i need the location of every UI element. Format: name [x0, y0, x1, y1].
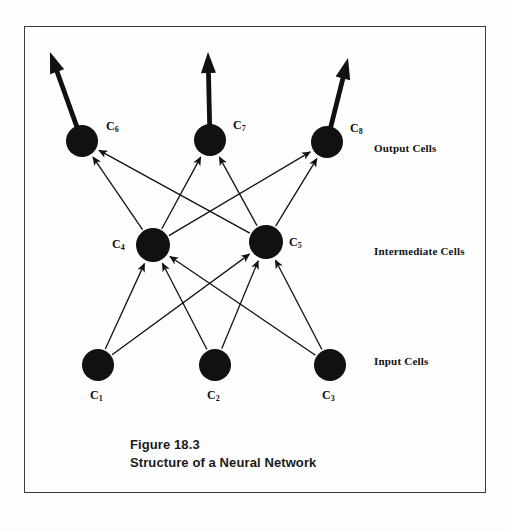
node-c5	[249, 225, 283, 259]
node-label-letter: C	[322, 388, 331, 402]
layer-label-output: Output Cells	[374, 142, 437, 154]
edge-c1-to-c4	[105, 264, 144, 349]
edge-c5-to-c7	[219, 157, 257, 226]
node-label-letter: C	[90, 388, 99, 402]
node-c3	[314, 349, 346, 381]
node-label-c2: C2	[207, 389, 220, 401]
output-arrow-c8	[328, 58, 350, 129]
node-label-index: 8	[359, 127, 363, 136]
layer-label-input: Input Cells	[374, 355, 428, 367]
edge-c5-to-c6	[99, 150, 250, 233]
node-label-letter: C	[289, 235, 298, 249]
node-c1	[82, 349, 114, 381]
node-label-letter: C	[106, 119, 115, 133]
node-label-index: 2	[216, 394, 220, 403]
node-label-c1: C1	[90, 389, 103, 401]
edge-c2-to-c5	[222, 261, 258, 349]
node-c2	[199, 349, 231, 381]
caption-number: Figure 18.3	[130, 436, 316, 454]
node-label-letter: C	[207, 388, 216, 402]
node-c4	[136, 228, 170, 262]
node-label-c5: C5	[289, 236, 302, 248]
node-label-index: 7	[242, 124, 246, 133]
node-label-letter: C	[350, 121, 359, 135]
node-label-c7: C7	[233, 119, 246, 131]
node-label-letter: C	[112, 237, 121, 251]
node-label-c4: C4	[112, 238, 125, 250]
output-arrows-group	[50, 52, 350, 129]
edge-c4-to-c7	[162, 157, 201, 229]
node-label-index: 4	[121, 243, 125, 252]
node-label-c6: C6	[106, 120, 119, 132]
edge-c2-to-c4	[162, 263, 207, 349]
edge-c3-to-c5	[275, 260, 321, 349]
node-label-index: 3	[331, 394, 335, 403]
output-arrow-c6	[50, 52, 80, 129]
figure-page: C1C2C3C4C5C6C7C8 Output Cells Intermedia…	[0, 0, 511, 531]
node-label-letter: C	[233, 118, 242, 132]
node-c6	[66, 125, 98, 157]
node-label-c3: C3	[322, 389, 335, 401]
layer-label-intermediate: Intermediate Cells	[374, 245, 465, 257]
output-arrow-c7	[201, 52, 216, 126]
caption-title: Structure of a Neural Network	[130, 454, 316, 472]
node-label-index: 5	[298, 241, 302, 250]
figure-caption: Figure 18.3 Structure of a Neural Networ…	[130, 436, 316, 473]
edge-c1-to-c5	[112, 254, 249, 355]
node-c7	[194, 124, 226, 156]
node-label-index: 1	[99, 394, 103, 403]
node-c8	[311, 126, 343, 158]
node-label-index: 6	[115, 125, 119, 134]
node-label-c8: C8	[350, 122, 363, 134]
edge-c3-to-c4	[170, 257, 316, 356]
edge-c4-to-c6	[93, 157, 143, 230]
edges-group	[93, 150, 322, 355]
